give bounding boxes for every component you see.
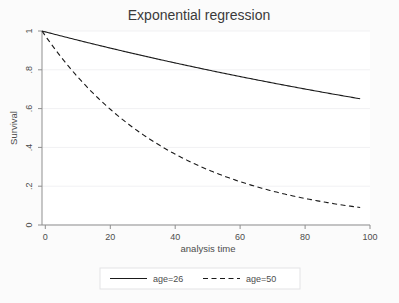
chart-title: Exponential regression — [128, 7, 270, 23]
x-axis-title: analysis time — [181, 243, 236, 254]
y-tick-label-0-2: .2 — [24, 182, 34, 190]
y-tick-label-0-6: .6 — [24, 105, 34, 113]
x-tick-label-80: 80 — [300, 232, 310, 242]
x-tick-label-40: 40 — [170, 232, 180, 242]
legend-label-age-50: age=50 — [246, 274, 276, 284]
exponential-regression-chart: Exponential regression 0 .2 .4 .6 .8 1 S… — [0, 0, 399, 303]
x-tick-label-100: 100 — [362, 232, 377, 242]
chart-figure: Exponential regression 0 .2 .4 .6 .8 1 S… — [0, 0, 399, 303]
y-tick-label-0: 0 — [24, 222, 34, 227]
legend: age=26 age=50 — [100, 268, 300, 289]
y-axis-title: Survival — [8, 111, 19, 145]
y-tick-label-0-8: .8 — [24, 66, 34, 74]
plot-area-background — [42, 31, 370, 225]
y-tick-label-0-4: .4 — [24, 144, 34, 152]
legend-label-age-26: age=26 — [153, 274, 183, 284]
x-tick-label-60: 60 — [235, 232, 245, 242]
x-tick-label-20: 20 — [105, 232, 115, 242]
x-tick-label-0: 0 — [43, 232, 48, 242]
y-tick-label-1: 1 — [24, 28, 34, 33]
